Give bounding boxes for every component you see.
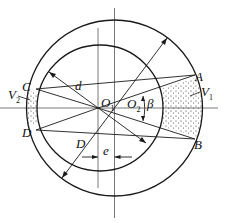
label-v1: V1 — [201, 85, 213, 102]
label-d-point: D — [22, 126, 31, 139]
label-o2: O2 — [127, 97, 140, 114]
label-d-outer: D — [76, 137, 85, 150]
label-b: B — [194, 138, 202, 151]
eccentric-pump-diagram: A B C D d D O1 O2 β V1 V2 e — [0, 0, 227, 223]
label-a: A — [195, 70, 203, 83]
label-o1: O1 — [101, 96, 114, 113]
label-c: C — [22, 80, 31, 93]
label-d-inner: d — [75, 79, 82, 92]
label-beta: β — [147, 97, 153, 110]
label-v2: V2 — [8, 88, 20, 105]
label-e: e — [103, 144, 109, 157]
